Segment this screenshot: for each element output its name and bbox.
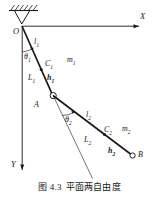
x-axis-arrowhead <box>134 24 140 28</box>
caption-title: 平面两自由度 <box>66 182 121 192</box>
centroid-distance-1-label: h1 <box>47 74 54 84</box>
length-1-label: L1 <box>28 74 35 84</box>
mass-1-label: m1 <box>67 56 76 66</box>
link-1-direction-label: l1 <box>34 38 39 48</box>
origin-label: O <box>13 27 19 36</box>
figure-container: O X Y l1 θ1 C1 m1 L1 h1 A θ2 l2 L2 C2 m2… <box>0 0 159 200</box>
mass-2-label: m2 <box>122 125 131 135</box>
end-b-label: B <box>138 151 143 159</box>
joint-a-label: A <box>34 101 39 109</box>
y-axis-arrowhead <box>20 165 24 171</box>
length-2-label: L2 <box>84 136 91 146</box>
theta-2-label: θ2 <box>65 116 72 126</box>
centroid-distance-2-label: h2 <box>108 147 115 157</box>
figure-caption: 图 4.3平面两自由度 <box>0 180 159 193</box>
pivot-bracket <box>15 11 30 24</box>
ground-support <box>9 5 38 24</box>
diagram-canvas <box>0 0 159 200</box>
centroid-1-label: C1 <box>45 60 53 70</box>
end-b-circle <box>130 153 135 158</box>
y-axis-label: Y <box>11 160 16 169</box>
centroid-2-label: C2 <box>104 126 112 136</box>
x-axis-label: X <box>140 12 145 21</box>
link-2-direction-label: l2 <box>86 111 91 121</box>
centroid-1-dot <box>40 68 43 71</box>
caption-number: 图 4.3 <box>38 182 62 192</box>
theta-1-label: θ1 <box>24 53 31 63</box>
ground-hatching <box>11 5 38 11</box>
